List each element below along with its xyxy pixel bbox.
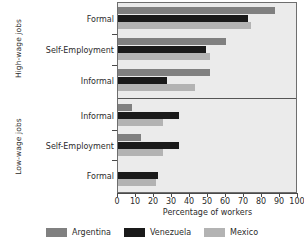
panel-divider [118,98,296,99]
category-label-0: Formal [22,15,114,24]
legend-swatch-icon-venezuela [124,228,145,237]
legend-label-venezuela: Venezuela [150,228,191,237]
legend-swatch-icon-argentina [46,228,67,237]
legend-item-mexico[interactable]: Mexico [204,228,258,237]
bar-venezuela-2 [118,77,167,84]
bar-argentina-4 [118,134,141,141]
bar-mexico-3 [118,119,163,126]
category-label-5: Formal [22,172,114,181]
x-tick-label-100: 100 [285,197,304,206]
bar-mexico-5 [118,179,156,186]
bar-argentina-2 [118,69,210,76]
category-label-column: FormalSelf-EmploymentInformalInformalSel… [19,0,114,193]
legend-label-argentina: Argentina [72,228,111,237]
bar-argentina-0 [118,7,275,14]
category-label-4: Self-Employment [22,142,114,151]
bar-venezuela-4 [118,142,179,149]
category-label-3: Informal [22,112,114,121]
bar-venezuela-5 [118,172,158,179]
legend-swatch-icon-mexico [204,228,225,237]
plot-area [117,2,297,193]
bar-venezuela-3 [118,112,179,119]
bar-mexico-1 [118,53,210,60]
bar-venezuela-0 [118,15,248,22]
x-axis-title: Percentage of workers [117,208,298,217]
bar-argentina-1 [118,38,226,45]
category-label-1: Self-Employment [22,46,114,55]
legend: ArgentinaVenezuelaMexico [0,228,304,237]
bar-mexico-2 [118,84,195,91]
bar-mexico-0 [118,22,251,29]
bar-mexico-4 [118,149,163,156]
category-label-2: Informal [22,77,114,86]
bar-venezuela-1 [118,46,206,53]
grouped-bar-chart: High-wage jobs Low-wage jobs FormalSelf-… [0,0,304,246]
bar-argentina-3 [118,104,132,111]
legend-label-mexico: Mexico [230,228,258,237]
legend-item-venezuela[interactable]: Venezuela [124,228,191,237]
legend-item-argentina[interactable]: Argentina [46,228,111,237]
